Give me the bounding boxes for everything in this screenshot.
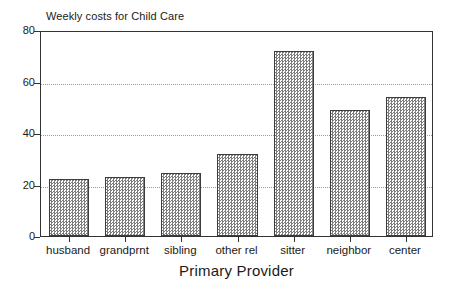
x-tick-mark-neighbor — [350, 236, 351, 242]
x-tick-label-sibling: sibling — [152, 243, 208, 258]
x-tick-mark-center — [406, 236, 407, 242]
bar-sibling — [161, 173, 201, 236]
x-tick-label-husband: husband — [40, 243, 96, 258]
bar-husband — [49, 179, 89, 236]
x-tick-mark-grandprnt — [125, 236, 126, 242]
x-tick-label-other-rel: other rel — [208, 243, 264, 258]
bar-series — [41, 32, 432, 236]
bar-grandprnt — [105, 177, 145, 236]
x-axis-title: Primary Provider — [40, 261, 433, 280]
x-tick-mark-sibling — [181, 236, 182, 242]
x-tick-label-sitter: sitter — [265, 243, 321, 258]
bar-other-rel — [217, 154, 257, 236]
x-tick-mark-sitter — [294, 236, 295, 242]
y-axis: 020406080 — [0, 0, 40, 291]
x-axis-tick-labels: husbandgrandprntsiblingother relsitterne… — [40, 243, 433, 259]
bar-neighbor — [330, 110, 370, 236]
x-tick-label-grandprnt: grandprnt — [96, 243, 152, 258]
x-tick-label-center: center — [377, 243, 433, 258]
x-tick-mark-husband — [69, 236, 70, 242]
x-tick-mark-other-rel — [238, 236, 239, 242]
x-tick-label-neighbor: neighbor — [321, 243, 377, 258]
chart-title: Weekly costs for Child Care — [46, 10, 184, 23]
plot-area — [40, 31, 433, 237]
bar-center — [386, 97, 426, 236]
bar-sitter — [274, 51, 314, 236]
y-tick-mark — [34, 237, 40, 238]
bar-chart-figure: Weekly costs for Child Care 020406080 hu… — [0, 0, 462, 291]
